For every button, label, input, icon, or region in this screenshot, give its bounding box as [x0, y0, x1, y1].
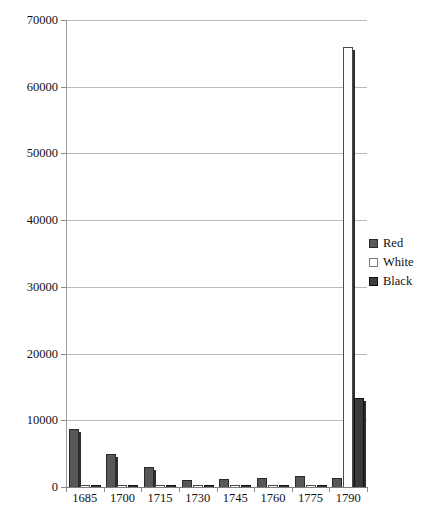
x-axis-tick-label: 1700 [110, 492, 135, 505]
y-axis-tick-label: 70000 [6, 14, 58, 27]
x-axis-tick [329, 487, 330, 492]
x-axis-tick [254, 487, 255, 492]
legend-label-red: Red [383, 237, 403, 250]
x-axis-tick-label: 1730 [185, 492, 210, 505]
y-axis-line [66, 20, 67, 487]
bar-white-1790[interactable] [343, 47, 353, 487]
bar-group [254, 20, 292, 487]
bar-red-1685[interactable] [69, 429, 79, 487]
bar-red-1760[interactable] [257, 478, 267, 487]
x-axis-tick [367, 487, 368, 492]
legend-swatch-white-icon [369, 258, 378, 267]
bar-shadow [364, 401, 366, 487]
bar-shadow [79, 432, 81, 487]
bar-red-1730[interactable] [182, 480, 192, 487]
x-axis-tick [66, 487, 67, 492]
legend-item-black[interactable]: Black [369, 272, 431, 290]
x-axis-tick-label: 1775 [298, 492, 323, 505]
y-axis-tick [61, 354, 66, 355]
y-axis-tick-label: 50000 [6, 147, 58, 160]
x-axis-tick [141, 487, 142, 492]
bar-group [179, 20, 217, 487]
y-axis-tick [61, 153, 66, 154]
bar-chart: 010000200003000040000500006000070000 168… [0, 0, 431, 506]
x-axis-tick-label: 1715 [148, 492, 173, 505]
plot-area [66, 20, 367, 487]
bar-red-1790[interactable] [332, 478, 342, 487]
x-axis-tick [179, 487, 180, 492]
legend-label-white: White [383, 256, 414, 269]
x-axis-tick [104, 487, 105, 492]
chart-legend: Red White Black [369, 234, 431, 291]
legend-label-black: Black [383, 275, 412, 288]
x-axis-tick-label: 1760 [260, 492, 285, 505]
legend-item-white[interactable]: White [369, 253, 431, 271]
y-axis-tick-label: 0 [6, 481, 58, 494]
bar-red-1715[interactable] [144, 467, 154, 487]
bar-group [217, 20, 255, 487]
x-axis-tick-label: 1685 [72, 492, 97, 505]
bar-black-1790[interactable] [354, 398, 364, 487]
legend-swatch-black-icon [369, 277, 378, 286]
bar-group [141, 20, 179, 487]
y-axis-tick [61, 87, 66, 88]
legend-swatch-red-icon [369, 239, 378, 248]
x-axis-tick [292, 487, 293, 492]
bar-red-1700[interactable] [106, 454, 116, 487]
bar-red-1745[interactable] [219, 479, 229, 487]
y-axis-tick-label: 30000 [6, 281, 58, 294]
y-axis-labels: 010000200003000040000500006000070000 [0, 0, 58, 506]
x-axis-tick-label: 1790 [336, 492, 361, 505]
legend-item-red[interactable]: Red [369, 234, 431, 252]
y-axis-tick [61, 20, 66, 21]
bar-group [104, 20, 142, 487]
x-axis-tick [217, 487, 218, 492]
y-axis-tick [61, 487, 66, 488]
y-axis-tick-label: 60000 [6, 80, 58, 93]
y-axis-tick [61, 420, 66, 421]
y-axis-tick [61, 287, 66, 288]
bar-group [292, 20, 330, 487]
x-axis-tick-label: 1745 [223, 492, 248, 505]
bar-group [66, 20, 104, 487]
y-axis-tick-label: 10000 [6, 414, 58, 427]
bar-group [329, 20, 367, 487]
y-axis-tick-label: 40000 [6, 214, 58, 227]
bar-shadow [116, 457, 118, 487]
y-axis-tick [61, 220, 66, 221]
bar-red-1775[interactable] [295, 476, 305, 487]
y-axis-tick-label: 20000 [6, 347, 58, 360]
